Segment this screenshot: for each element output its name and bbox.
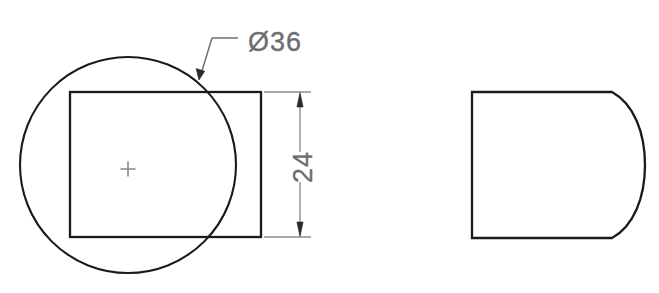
center-mark-icon	[121, 162, 136, 177]
drawing-canvas: Ø36 24	[0, 0, 659, 293]
dimension-arrowhead-bottom-icon	[297, 222, 303, 237]
height-dimension: 24	[264, 92, 318, 237]
diameter-label: Ø36	[248, 27, 302, 57]
technical-drawing-svg: Ø36 24	[0, 0, 659, 293]
height-label: 24	[288, 151, 318, 183]
front-view	[20, 57, 261, 273]
d-profile-outline	[472, 92, 645, 238]
square-outline	[70, 92, 261, 237]
dimension-arrowhead-top-icon	[297, 93, 303, 108]
side-view	[472, 92, 645, 238]
diameter-callout: Ø36	[196, 27, 302, 80]
leader-line	[201, 38, 212, 74]
leader-arrowhead-icon	[196, 69, 204, 80]
